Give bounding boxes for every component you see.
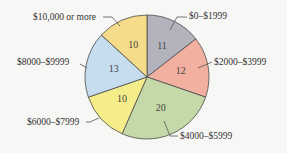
slice-label: $4000–$5999 [180,131,233,141]
slice-label: $0–$1999 [189,11,227,21]
slice-value: 13 [109,63,119,74]
leader-line [86,118,99,122]
slice-value: 10 [128,39,138,50]
slice-value: 10 [117,93,127,104]
pie-slices [85,15,209,139]
slice-value: 20 [156,102,166,113]
slice-label: $6000–$7999 [27,117,80,127]
slice-value: 11 [157,40,167,51]
slice-label: $2000–$3999 [214,57,267,67]
slice-value: 12 [176,65,186,76]
slice-label: $10,000 or more [33,12,96,22]
pie-chart: 111220101310 $0–$1999$2000–$3999$4000–$5… [0,0,287,153]
slice-label: $8000–$9999 [17,57,70,67]
